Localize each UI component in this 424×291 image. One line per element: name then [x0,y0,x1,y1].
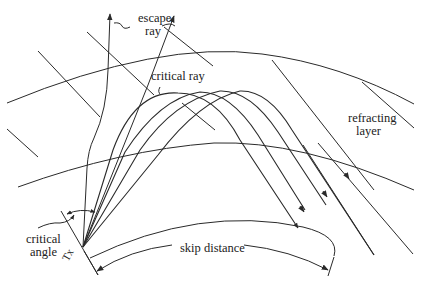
layer-upper-boundary [7,51,414,104]
transmitter-label: Tx [59,246,76,263]
skip-distance-label: skip distance [180,241,245,255]
critical-ray-label: critical ray [151,69,206,83]
refracting-layer-label-1: refracting [348,111,397,125]
escape-ray-leader-left [114,23,130,28]
critical-angle-label-2: angle [30,245,58,259]
escape-ray-label-2: ray [145,24,162,38]
ray-continuation [318,143,413,254]
critical-angle-label-1: critical [26,232,61,246]
escape-ray-label-1: escape [138,11,172,25]
critical-ray-leader [159,87,161,95]
refracted-rays [83,91,374,255]
layer-lower-boundary [18,143,414,190]
skip-distance-diagram: escape ray critical ray refracting layer… [0,0,424,291]
refracting-layer-label-2: layer [356,124,382,138]
escape-rays [83,14,174,247]
